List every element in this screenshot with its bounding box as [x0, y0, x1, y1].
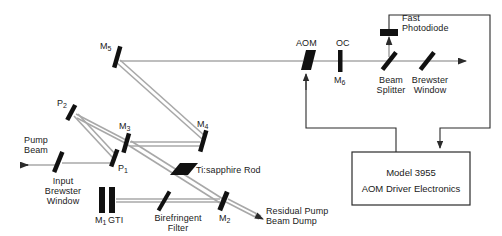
beam-m2-residual-b: [228, 199, 261, 216]
label-m3: M3: [119, 121, 131, 134]
label-input-brewster-window: Input Brewster Window: [28, 176, 98, 206]
label-oc: OC: [336, 38, 350, 48]
driver-box-line1: Model 3955: [352, 166, 470, 180]
mirror-m3: [121, 133, 131, 153]
label-m1: M1: [95, 215, 107, 228]
label-pump-beam: Pump Beam: [12, 135, 60, 155]
label-brewster-window: Brewster Window: [405, 75, 455, 95]
label-ti-sapphire-rod: Ti:sapphire Rod: [196, 165, 261, 175]
mirror-m1: [99, 187, 105, 213]
label-fast-photodiode: Fast Photodiode: [402, 13, 449, 33]
label-m2: M2: [219, 213, 231, 226]
birefringent-filter: [157, 190, 171, 211]
label-m5: M5: [100, 41, 112, 54]
aom-crystal: [301, 50, 316, 70]
mirror-m2: [217, 191, 229, 211]
label-m6: M6: [334, 75, 346, 88]
optical-diagram: M5 M4 M3 P2 P1 M1 GTI M2 M6 AOM OC Pump …: [0, 0, 502, 236]
gti-etalon: [109, 187, 115, 213]
label-birefringent-filter: Birefringent Filter: [138, 213, 218, 233]
mirror-m4: [198, 130, 208, 152]
label-p2: P2: [57, 98, 67, 111]
fast-photodiode: [380, 29, 398, 36]
mirror-m5: [112, 46, 122, 68]
beam-m5-to-m4-b: [120, 60, 205, 136]
label-p1: P1: [118, 163, 128, 176]
label-gti: GTI: [108, 215, 123, 225]
label-residual-pump-beam-dump: Residual Pump Beam Dump: [266, 206, 328, 226]
driver-box-line2: AOM Driver Electronics: [352, 182, 470, 196]
label-aom: AOM: [296, 38, 317, 48]
beam-m2-residual-a: [226, 202, 259, 219]
label-m4: M4: [197, 119, 209, 132]
mirror-m6-output-coupler: [338, 50, 343, 72]
